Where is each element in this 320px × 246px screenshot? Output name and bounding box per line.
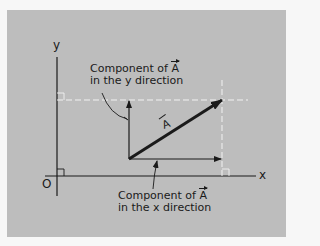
x-projection-right-angle-marker xyxy=(222,169,229,176)
x-component-label: Component of A in the x direction xyxy=(118,190,211,214)
y-axis-label: y xyxy=(53,38,60,52)
y-component-label: Component of A in the y direction xyxy=(90,63,183,87)
origin-label: O xyxy=(42,177,51,191)
vector-a-symbol: A xyxy=(199,190,207,202)
x-axis-label: x xyxy=(259,168,266,182)
y-projection-right-angle-marker xyxy=(57,93,64,100)
vector-a-symbol: A xyxy=(171,63,179,75)
y-component-leader-line xyxy=(102,93,127,119)
vector-a-label: A xyxy=(158,114,172,132)
x-component-leader-line xyxy=(153,161,157,189)
svg-text:A: A xyxy=(160,117,172,132)
origin-right-angle-marker xyxy=(57,169,64,176)
vector-a-arrow xyxy=(129,100,222,159)
